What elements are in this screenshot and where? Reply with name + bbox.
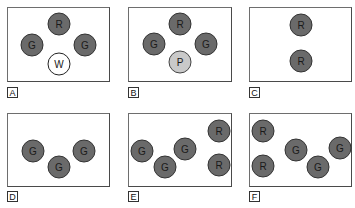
circle-p: P <box>169 51 192 74</box>
panel-label-f: F <box>249 191 260 202</box>
circle-g: G <box>131 140 154 163</box>
circle-g: G <box>195 33 218 56</box>
circle-r: R <box>290 50 313 73</box>
circle-g: G <box>174 138 197 161</box>
circle-g: G <box>22 140 45 163</box>
circle-r: R <box>290 14 313 37</box>
circle-g: G <box>21 34 44 57</box>
circle-g: G <box>143 33 166 56</box>
circle-g: G <box>48 156 71 179</box>
circle-g: G <box>285 139 308 162</box>
panel-label-e: E <box>128 191 139 202</box>
circle-r: R <box>252 120 275 143</box>
circle-g: G <box>329 137 352 160</box>
circle-r: R <box>252 155 275 178</box>
panel-label-b: B <box>128 87 139 98</box>
circle-g: G <box>73 140 96 163</box>
circle-r: R <box>208 154 231 177</box>
circle-r: R <box>48 13 71 36</box>
circle-g: G <box>74 34 97 57</box>
panel-label-c: C <box>249 87 260 98</box>
panel-label-a: A <box>7 87 18 98</box>
circle-r: R <box>169 13 192 36</box>
circle-g: G <box>307 156 330 179</box>
circle-g: G <box>154 156 177 179</box>
circle-w: W <box>48 53 71 76</box>
circle-r: R <box>208 120 231 143</box>
panel-label-d: D <box>7 191 18 202</box>
